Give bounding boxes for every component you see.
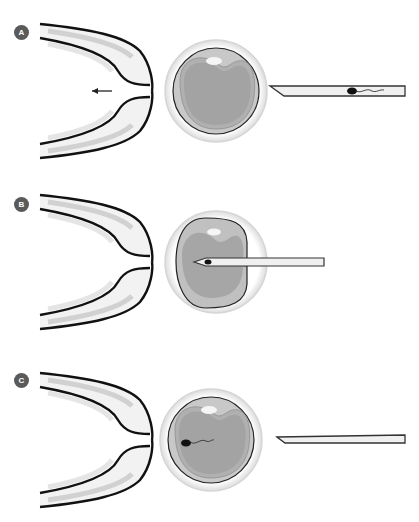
sperm-head-icon: [347, 88, 357, 95]
panel-c: [40, 373, 405, 507]
holding-pipette-c: [40, 373, 152, 507]
sperm-head-icon: [205, 260, 212, 265]
panel-label-c: C: [14, 373, 29, 388]
diagram-canvas: [0, 0, 419, 522]
oocyte-c: [160, 389, 262, 491]
injection-needle-c: [277, 435, 405, 443]
panel-label-a: A: [14, 25, 29, 40]
panel-label-b: B: [14, 197, 29, 212]
injection-needle-a: [270, 86, 405, 96]
panel-b: [40, 195, 324, 329]
icsi-diagram: A B C: [0, 0, 419, 522]
panel-a: [40, 24, 405, 158]
oocyte-a: [165, 40, 267, 142]
injection-needle-b: [194, 258, 324, 266]
holding-pipette-b: [40, 195, 152, 329]
